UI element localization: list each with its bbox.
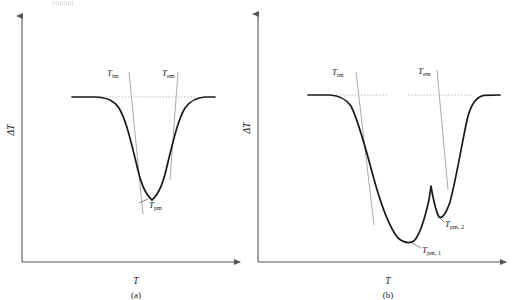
figure-canvas: Tim Tem Tpm T ΔT (a) <box>0 0 512 300</box>
panel-b-peak1-leader <box>412 243 421 248</box>
panel-a-x-axis-label: T <box>133 276 139 286</box>
panel-a-peak-leader <box>139 199 148 203</box>
panel-b-peak2-label: Tpm, 2 <box>445 219 464 230</box>
dta-figure: Tim Tem Tpm T ΔT (a) <box>0 0 512 300</box>
panel-b-x-axis-label: T <box>385 276 391 286</box>
panel-b-onset-label: Tim <box>332 67 344 78</box>
panel-b-y-axis-label: ΔT <box>242 122 252 135</box>
panel-a-peak-label: Tpm <box>149 200 162 211</box>
panel-b-end-tangent <box>437 70 448 190</box>
panel-a-onset-label: Tim <box>107 68 119 79</box>
scan-artifact <box>52 1 74 5</box>
panel-a: Tim Tem Tpm T ΔT (a) <box>6 16 240 300</box>
panel-a-dta-curve <box>72 97 215 200</box>
panel-b-caption: (b) <box>383 290 394 300</box>
panel-b-peak1-label: Tpm, 1 <box>422 245 441 256</box>
panel-a-y-axis-label: ΔT <box>6 124 16 137</box>
panel-b: Tim Tem Tpm, 1 Tpm, 2 T ΔT (b) <box>242 14 506 300</box>
panel-b-dta-curve <box>308 95 500 243</box>
panel-b-end-label: Tem <box>418 66 431 77</box>
panel-a-caption: (a) <box>131 290 141 300</box>
panel-a-end-label: Tem <box>162 68 175 79</box>
